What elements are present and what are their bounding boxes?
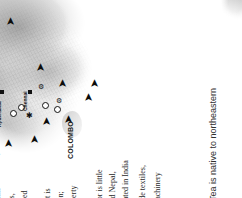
text-fragment: tion; xyxy=(57,191,65,198)
square-industry-symbol xyxy=(28,90,32,94)
star-mineral-symbol: ✱ xyxy=(26,112,33,120)
circle-resource-symbol xyxy=(54,106,61,113)
square-industry-symbol xyxy=(0,90,4,94)
arrow-marker: ➤ xyxy=(83,93,94,102)
scanned-page: ➤ ➤ ➤ ➤ ➤ ➤ ➤ ➤ ➤ ➤ ➤ ➤ ➤ ➤ ✱ ✱ ✱ ✱ ⚙ ⚙ … xyxy=(0,0,242,198)
circle-resource-symbol xyxy=(42,102,49,109)
text-fragment: al has xyxy=(0,188,2,198)
tea-caption: Tea is native to northeastern xyxy=(209,88,218,198)
south-asia-economic-map: ➤ ➤ ➤ ➤ ➤ ➤ ➤ ➤ ➤ ➤ ➤ ➤ ➤ ➤ ✱ ✱ ✱ ✱ ⚙ ⚙ … xyxy=(0,0,128,172)
text-fragment: overty xyxy=(70,186,78,198)
arrow-marker: ➤ xyxy=(35,63,46,72)
arrow-marker: ➤ xyxy=(0,147,2,156)
arrow-marker: ➤ xyxy=(89,79,100,88)
text-fragment: lude textiles, xyxy=(139,165,147,198)
gear-manufacturing-symbol: ⚙ xyxy=(38,84,44,91)
gear-manufacturing-symbol: ⚙ xyxy=(56,98,62,105)
text-fragment: but is xyxy=(44,188,52,198)
map-label-hyderabad: Hyderabad xyxy=(0,101,2,127)
scan-smudge xyxy=(212,0,242,28)
text-fragment: ctor is little xyxy=(96,170,104,198)
text-fragment: ves, xyxy=(8,193,16,198)
text-fragment: machinery xyxy=(154,172,162,198)
text-fragment: and Nepal, xyxy=(109,171,117,198)
arrow-marker: ➤ xyxy=(5,17,16,26)
arrow-marker: ➤ xyxy=(41,117,52,126)
circle-resource-symbol xyxy=(10,110,17,117)
text-fragment: icated in India xyxy=(122,160,130,198)
arrow-marker: ➤ xyxy=(3,139,14,148)
text-fragment: pped xyxy=(21,190,29,198)
arrow-marker: ➤ xyxy=(57,79,68,88)
map-label-colombo: COLOMBO xyxy=(67,121,74,159)
arrow-marker: ➤ xyxy=(29,135,40,144)
map-label-chennai: Chennai xyxy=(23,91,28,111)
